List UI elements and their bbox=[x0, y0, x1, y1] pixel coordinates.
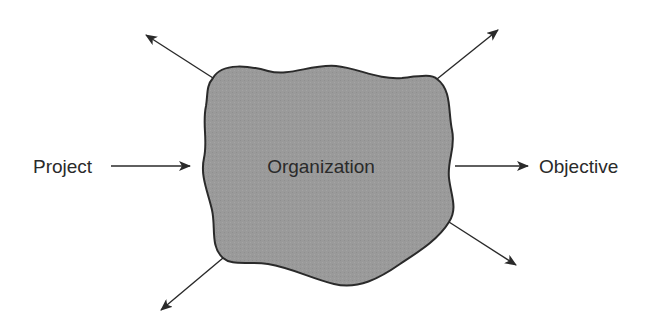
upper-left-arrow bbox=[146, 35, 213, 78]
lower-right-arrow bbox=[449, 222, 516, 265]
project-label: Project bbox=[33, 156, 93, 177]
diagram-canvas: Organization Project Objective bbox=[0, 0, 666, 328]
upper-right-arrow bbox=[437, 30, 498, 79]
organization-label: Organization bbox=[267, 156, 375, 177]
lower-left-arrow bbox=[161, 258, 223, 310]
objective-label: Objective bbox=[539, 156, 618, 177]
